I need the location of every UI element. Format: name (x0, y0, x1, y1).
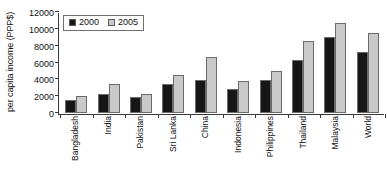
y-axis-title: per capita income (PPP$) (5, 6, 15, 118)
x-label-slot: India (92, 116, 125, 178)
bar-world-2005 (368, 33, 379, 113)
x-axis-label-philippines: Philippines (266, 116, 275, 157)
bar-india-2005 (109, 84, 120, 113)
x-label-slot: Thailand (287, 116, 320, 178)
x-axis-label-malaysia: Malaysia (331, 116, 340, 150)
bar-malaysia-2000 (324, 37, 335, 113)
bar-sri-lanka-2005 (173, 75, 184, 113)
bar-group (352, 13, 384, 113)
x-axis-label-thailand: Thailand (298, 116, 307, 149)
x-label-slot: Philippines (254, 116, 287, 178)
legend-label: 2005 (118, 17, 138, 28)
x-axis-label-bangladesh: Bangladesh (71, 116, 80, 161)
x-axis-category-labels: BangladeshIndiaPakistanSri LankaChinaInd… (59, 116, 384, 178)
x-axis-label-indonesia: Indonesia (233, 116, 242, 153)
bar-thailand-2000 (292, 60, 303, 113)
bar-chart: per capita income (PPP$) 020004000600080… (0, 0, 388, 178)
y-axis-tick-label: 2000 (16, 93, 54, 102)
x-axis-tick-mark (385, 114, 386, 118)
bar-philippines-2005 (271, 71, 282, 114)
bar-world-2000 (357, 52, 368, 113)
bar-china-2000 (195, 80, 206, 113)
bar-group (319, 13, 351, 113)
bar-india-2000 (98, 94, 109, 113)
y-axis-tick-mark (55, 95, 59, 96)
y-axis-tick-label: 8000 (16, 42, 54, 51)
bar-malaysia-2005 (335, 23, 346, 113)
y-axis-tick-mark (55, 78, 59, 79)
x-label-slot: Bangladesh (59, 116, 92, 178)
bar-group (222, 13, 254, 113)
bar-pakistan-2005 (141, 94, 152, 113)
legend-entry-2000: 2000 (69, 17, 99, 28)
bar-bangladesh-2000 (65, 100, 76, 113)
y-axis-tick-label: 6000 (16, 59, 54, 68)
bar-group (254, 13, 286, 113)
y-axis-tick-mark (55, 62, 59, 63)
legend-swatch-icon-2000 (69, 19, 76, 26)
chart-legend: 20002005 (63, 15, 144, 31)
bar-thailand-2005 (303, 41, 314, 113)
bar-group (287, 13, 319, 113)
x-label-slot: Sri Lanka (157, 116, 190, 178)
y-axis-tick-label: 12000 (16, 9, 54, 18)
bar-china-2005 (206, 57, 217, 113)
y-axis-tick-label: 0 (16, 110, 54, 119)
y-axis-tick-labels: 020004000600080001000012000 (16, 13, 54, 115)
x-axis-label-china: China (201, 116, 210, 138)
y-axis-tick-label: 4000 (16, 76, 54, 85)
y-axis-tick-mark (55, 112, 59, 113)
bar-indonesia-2000 (227, 89, 238, 113)
x-axis-label-pakistan: Pakistan (136, 116, 145, 149)
y-axis-tick-label: 10000 (16, 25, 54, 34)
x-axis-label-world: World (363, 116, 372, 138)
x-axis-label-india: India (103, 116, 112, 134)
bar-sri-lanka-2000 (162, 84, 173, 113)
legend-swatch-icon-2005 (108, 19, 115, 26)
legend-entry-2005: 2005 (108, 17, 138, 28)
x-label-slot: Malaysia (319, 116, 352, 178)
x-label-slot: World (352, 116, 385, 178)
x-label-slot: Indonesia (222, 116, 255, 178)
y-axis-tick-mark (55, 45, 59, 46)
bar-indonesia-2005 (238, 81, 249, 113)
x-label-slot: China (189, 116, 222, 178)
x-label-slot: Pakistan (124, 116, 157, 178)
y-axis-tick-mark (55, 28, 59, 29)
y-axis-tick-mark (55, 11, 59, 12)
bar-philippines-2000 (260, 80, 271, 113)
bar-group (190, 13, 222, 113)
bar-bangladesh-2005 (76, 96, 87, 113)
bar-group (157, 13, 189, 113)
bar-pakistan-2000 (130, 97, 141, 113)
x-axis-label-sri-lanka: Sri Lanka (168, 116, 177, 152)
legend-label: 2000 (79, 17, 99, 28)
